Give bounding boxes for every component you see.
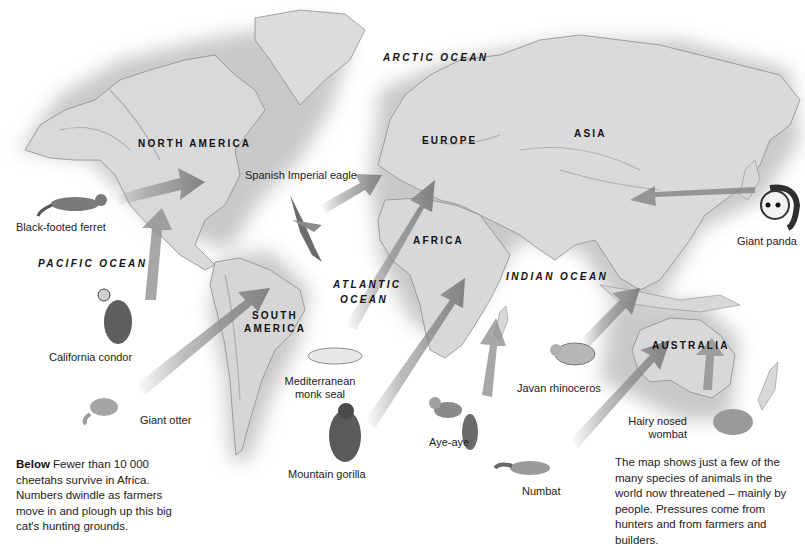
ocean-label-indian: INDIAN OCEAN xyxy=(506,271,608,282)
animal-label-javan-rhinoceros: Javan rhinoceros xyxy=(517,382,601,394)
animal-label-california-condor: California condor xyxy=(49,351,132,363)
animal-label-line: monk seal xyxy=(282,388,358,401)
region-label-asia: ASIA xyxy=(574,128,607,139)
animal-label-line: wombat xyxy=(617,428,687,441)
region-label-europe: EUROPE xyxy=(422,135,477,146)
otter-illustration xyxy=(85,398,118,424)
region-label-south-america-line1: SOUTH xyxy=(252,310,298,321)
animal-label-giant-panda: Giant panda xyxy=(737,235,797,247)
ocean-label-atlantic-line2: OCEAN xyxy=(340,294,388,305)
animal-label-hairy-nosed-wombat: Hairy nosed wombat xyxy=(617,415,687,441)
animal-label-line: Hairy nosed xyxy=(617,415,687,428)
region-label-south-america: AMERICA xyxy=(244,323,306,334)
animal-label-line: Mediterranean xyxy=(282,375,358,388)
animal-label-mountain-gorilla: Mountain gorilla xyxy=(288,468,366,480)
ocean-label-atlantic-line1: ATLANTIC xyxy=(333,279,401,290)
monk-seal-illustration xyxy=(308,348,362,364)
caption-cheetah: Below Fewer than 10 000 cheetahs survive… xyxy=(16,457,186,535)
animal-label-mediterranean-monk-seal: Mediterranean monk seal xyxy=(282,375,358,401)
animal-label-spanish-imperial-eagle: Spanish Imperial eagle xyxy=(245,169,357,181)
ocean-label-pacific: PACIFIC OCEAN xyxy=(38,258,147,269)
ocean-label-arctic: ARCTIC OCEAN xyxy=(383,52,488,63)
region-label-africa: AFRICA xyxy=(413,235,464,246)
panda-illustration xyxy=(761,188,797,228)
animal-label-aye-aye: Aye-aye xyxy=(429,436,469,448)
animal-label-numbat: Numbat xyxy=(522,485,561,497)
region-label-australia: AUSTRALIA xyxy=(652,340,730,351)
caption-map-summary: The map shows just a few of the many spe… xyxy=(615,455,800,548)
condor-illustration xyxy=(98,289,132,344)
eagle-illustration xyxy=(290,195,322,262)
caption-bold-lead: Below xyxy=(16,458,50,470)
animal-label-black-footed-ferret: Black-footed ferret xyxy=(16,221,106,233)
region-label-north-america: NORTH AMERICA xyxy=(138,138,251,149)
animal-label-giant-otter: Giant otter xyxy=(140,414,191,426)
rhino-illustration xyxy=(550,343,595,365)
gorilla-illustration xyxy=(329,403,361,462)
new-zealand xyxy=(758,362,778,410)
numbat-illustration xyxy=(495,461,550,475)
ferret-illustration xyxy=(38,194,107,216)
wombat-illustration xyxy=(713,409,753,435)
